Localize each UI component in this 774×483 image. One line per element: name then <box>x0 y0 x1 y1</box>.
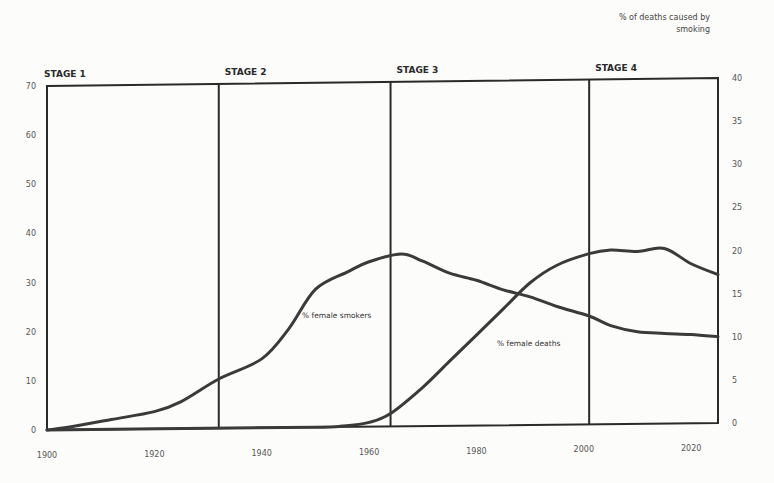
right-tick-label: 30 <box>732 160 742 169</box>
x-tick-label: 1960 <box>359 448 379 457</box>
right-tick-label: 25 <box>732 203 742 212</box>
x-tick-label: 1920 <box>144 450 164 459</box>
stage-label: STAGE 4 <box>595 63 637 73</box>
stage-label: STAGE 1 <box>44 69 86 79</box>
x-tick-label: 2020 <box>681 444 701 453</box>
right-tick-label: 20 <box>732 247 742 256</box>
stage-labels: STAGE 1STAGE 2STAGE 3STAGE 4 <box>44 63 637 79</box>
female-smokers-label: % female smokers <box>302 311 371 320</box>
plot-frame <box>47 78 718 430</box>
left-tick-label: 10 <box>26 377 36 386</box>
left-tick-label: 50 <box>26 180 36 189</box>
left-tick-label: 20 <box>26 328 36 337</box>
right-tick-label: 35 <box>732 117 742 126</box>
right-tick-label: 5 <box>732 376 737 385</box>
female-deaths-label: % female deaths <box>497 339 560 348</box>
right-tick-label: 10 <box>732 333 742 342</box>
right-axis-title: % of deaths caused by <box>619 13 710 22</box>
left-tick-label: 0 <box>31 426 36 435</box>
right-tick-label: 40 <box>732 74 742 83</box>
x-tick-label: 2000 <box>574 445 594 454</box>
chart: % of deaths caused by smoking STAGE 1STA… <box>0 0 774 483</box>
right-tick-label: 0 <box>732 419 737 428</box>
x-tick-label: 1940 <box>252 449 272 458</box>
left-axis-ticks: 010203040506070 <box>26 82 36 435</box>
left-tick-label: 70 <box>26 82 36 91</box>
female-deaths-line <box>47 248 718 430</box>
stage-label: STAGE 3 <box>397 65 439 75</box>
right-axis-title-line2: smoking <box>676 25 710 34</box>
x-tick-label: 1900 <box>37 451 57 460</box>
left-tick-label: 60 <box>26 131 36 140</box>
left-tick-label: 40 <box>26 229 36 238</box>
female-smokers-line <box>47 254 718 430</box>
x-tick-label: 1980 <box>466 447 486 456</box>
stage-label: STAGE 2 <box>225 67 267 77</box>
x-axis-ticks: 1900192019401960198020002020 <box>37 444 702 460</box>
right-axis-ticks: 0510152025303540 <box>732 74 742 428</box>
right-tick-label: 15 <box>732 290 742 299</box>
left-tick-label: 30 <box>26 279 36 288</box>
